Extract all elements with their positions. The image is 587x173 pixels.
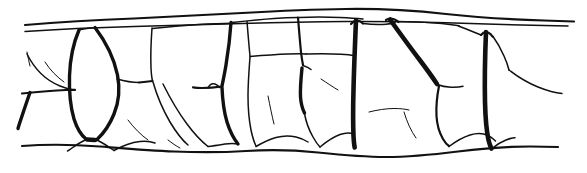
cell-cross-section-drawing <box>0 0 587 173</box>
cell-wall-junction-152-left <box>139 81 153 83</box>
figure-container: Monochrome ink line drawing of a horizon… <box>0 0 587 173</box>
cell-wall-junction-blob-left <box>87 140 95 141</box>
